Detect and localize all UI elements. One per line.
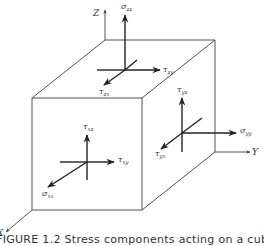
sigma-xx-label: σxx (42, 190, 54, 200)
tau-yz-label: τyz (177, 86, 187, 96)
cube-edges (32, 40, 215, 210)
tau-yx-arrow (161, 133, 182, 149)
sigma-xx-arrow (48, 162, 87, 187)
z-axis-label: Z (93, 9, 99, 18)
tau-zy-label: τzy (163, 66, 173, 76)
tau-yx-label: τyx (155, 150, 166, 160)
sigma-yy-label: σyy (240, 127, 252, 137)
tau-xz-label: τxz (83, 123, 93, 133)
y-axis-label: Y (252, 148, 258, 157)
cube-diagram (0, 0, 264, 246)
tau-zx-arrow (104, 70, 125, 85)
sigma-zz-label: σzz (121, 3, 132, 13)
top-face-stresses (97, 15, 160, 85)
tau-xy-label: τxy (118, 156, 129, 166)
x-axis (6, 210, 32, 232)
right-face-stresses (161, 98, 236, 152)
front-face-stresses (48, 135, 114, 187)
tau-zx-label: τzx (99, 88, 109, 98)
figure-caption: FIGURE 1.2 Stress components acting on a… (0, 233, 264, 246)
stress-cube-figure: Z Y X σzz τzy τzx τxz τxy σxx τyz σyy τy… (0, 0, 264, 246)
